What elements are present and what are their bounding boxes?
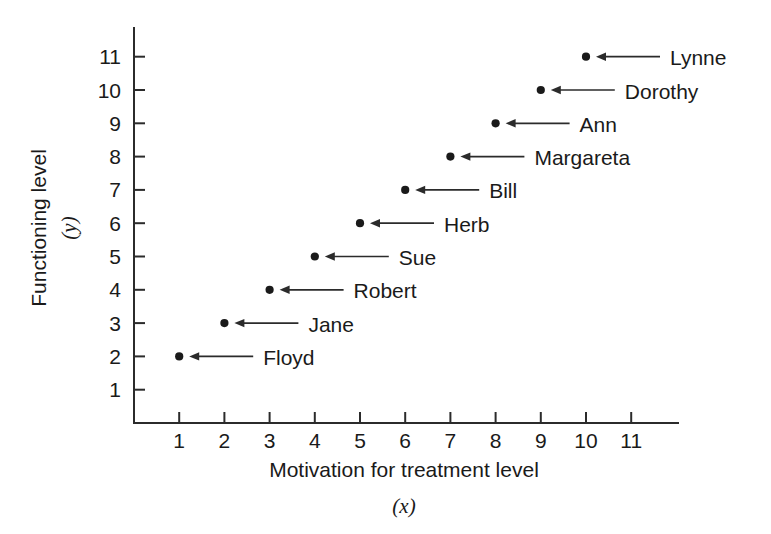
- point-label-sue: Sue: [399, 246, 436, 269]
- callout-arrow-head: [460, 152, 470, 160]
- point-label-margareta: Margareta: [534, 146, 630, 169]
- x-tick-label-7: 7: [445, 429, 457, 452]
- axes-group: [134, 28, 678, 423]
- point-label-floyd: Floyd: [263, 346, 314, 369]
- x-axis-ticks: 1234567891011: [173, 412, 642, 452]
- x-tick-label-10: 10: [574, 429, 597, 452]
- y-tick-label-10: 10: [98, 79, 121, 102]
- callout-arrow-head: [551, 86, 561, 94]
- data-point-group: Sue: [311, 246, 436, 269]
- data-point-group: Herb: [356, 213, 490, 236]
- data-point-group: Floyd: [175, 346, 314, 369]
- y-tick-label-11: 11: [99, 45, 121, 68]
- x-tick-label-2: 2: [219, 429, 231, 452]
- x-axis-variable: (x): [392, 494, 415, 518]
- callout-arrow-head: [234, 319, 244, 327]
- callout-arrow-head: [596, 53, 606, 61]
- point-label-bill: Bill: [489, 179, 517, 202]
- data-point-group: Bill: [401, 179, 517, 202]
- y-axis-title: Functioning level: [27, 149, 50, 307]
- y-tick-label-5: 5: [109, 245, 121, 268]
- data-point-marker: [175, 352, 183, 360]
- x-tick-label-1: 1: [173, 429, 185, 452]
- callout-arrow-head: [189, 352, 199, 360]
- x-tick-label-5: 5: [354, 429, 366, 452]
- data-point-group: Ann: [492, 113, 617, 136]
- y-tick-label-3: 3: [109, 312, 121, 335]
- callout-arrow-head: [370, 219, 380, 227]
- x-axis-title-group: Motivation for treatment level (x): [269, 458, 539, 518]
- plot-canvas: 1234567891011 1234567891011 Functioning …: [0, 0, 771, 534]
- y-tick-label-7: 7: [109, 178, 121, 201]
- x-tick-label-8: 8: [490, 429, 502, 452]
- point-label-robert: Robert: [354, 279, 417, 302]
- x-tick-label-6: 6: [399, 429, 411, 452]
- callout-arrow-head: [506, 119, 516, 127]
- y-tick-label-1: 1: [109, 378, 121, 401]
- y-tick-label-9: 9: [109, 112, 121, 135]
- scatter-plot-figure: 1234567891011 1234567891011 Functioning …: [0, 0, 771, 534]
- y-axis-title-group: Functioning level (y): [27, 149, 81, 307]
- y-tick-label-2: 2: [109, 345, 121, 368]
- point-label-dorothy: Dorothy: [625, 80, 699, 103]
- data-point-group: Robert: [266, 279, 417, 302]
- y-tick-label-6: 6: [109, 212, 121, 235]
- point-label-jane: Jane: [308, 313, 354, 336]
- data-point-marker: [446, 153, 454, 161]
- y-tick-label-4: 4: [109, 278, 121, 301]
- data-point-marker: [537, 86, 545, 94]
- point-label-lynne: Lynne: [670, 46, 726, 69]
- data-point-marker: [220, 319, 228, 327]
- x-tick-label-11: 11: [620, 429, 642, 452]
- data-point-group: Margareta: [446, 146, 630, 169]
- data-point-group: Jane: [220, 313, 354, 336]
- data-point-marker: [356, 219, 364, 227]
- y-tick-label-8: 8: [109, 145, 121, 168]
- callout-arrow-head: [415, 186, 425, 194]
- data-point-marker: [311, 252, 319, 260]
- data-point-group: Dorothy: [537, 80, 699, 103]
- x-tick-label-3: 3: [264, 429, 276, 452]
- data-points-layer: FloydJaneRobertSueHerbBillMargaretaAnnDo…: [175, 46, 726, 369]
- callout-arrow-head: [325, 252, 335, 260]
- data-point-marker: [266, 286, 274, 294]
- point-label-herb: Herb: [444, 213, 490, 236]
- data-point-group: Lynne: [582, 46, 727, 69]
- point-label-ann: Ann: [580, 113, 617, 136]
- x-tick-label-4: 4: [309, 429, 321, 452]
- callout-arrow-head: [280, 286, 290, 294]
- data-point-marker: [582, 53, 590, 61]
- x-axis-title: Motivation for treatment level: [269, 458, 539, 481]
- y-axis-variable: (y): [57, 216, 81, 239]
- x-tick-label-9: 9: [535, 429, 547, 452]
- data-point-marker: [492, 119, 500, 127]
- data-point-marker: [401, 186, 409, 194]
- y-axis-ticks: 1234567891011: [98, 45, 145, 401]
